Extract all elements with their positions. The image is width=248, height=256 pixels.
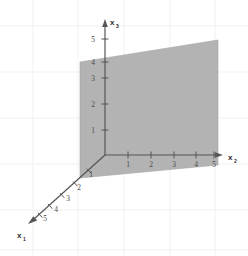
coordinate-system-diagram: 1 2 3 4 5 1 2 3 4 5 1 2 3 4 5 x 3 x 2 x … [0, 0, 248, 256]
axis-label-x2-subscript: 2 [234, 158, 237, 164]
x1-tick-label-3: 3 [66, 194, 70, 203]
x3-tick-label-4: 4 [91, 58, 95, 67]
x1-tick-label-5: 5 [43, 214, 47, 223]
axis-label-x2-base: x [228, 153, 233, 162]
x3-tick-label-3: 3 [91, 74, 95, 83]
axis-label-x3-base: x [110, 18, 115, 27]
axis-label-x1-subscript: 1 [23, 236, 26, 242]
x3-tick-label-1: 1 [91, 126, 95, 135]
x1-tick-label-2: 2 [77, 183, 81, 192]
shaded-plane-region [80, 40, 218, 178]
figure-canvas: 1 2 3 4 5 1 2 3 4 5 1 2 3 4 5 x 3 x 2 x … [0, 0, 248, 256]
x3-tick-label-5: 5 [91, 35, 95, 44]
x2-tick-label-5: 5 [212, 160, 216, 169]
axis-label-x1-base: x [17, 231, 22, 240]
x2-tick-label-4: 4 [194, 160, 198, 169]
x3-tick-label-2: 2 [91, 100, 95, 109]
x2-tick-label-1: 1 [126, 160, 130, 169]
axis-label-x3-subscript: 3 [116, 23, 119, 29]
x2-tick-label-2: 2 [149, 160, 153, 169]
x1-tick-label-1: 1 [89, 170, 93, 179]
x1-tick-label-4: 4 [54, 205, 58, 214]
x2-tick-label-3: 3 [172, 160, 176, 169]
